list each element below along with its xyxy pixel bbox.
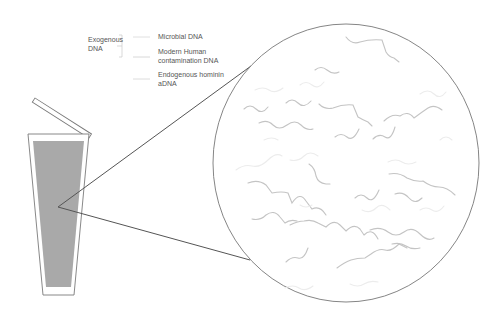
legend-item-label-line2: aDNA [158, 79, 224, 88]
legend-item-microbial: Microbial DNA [158, 32, 203, 41]
legend-item-label: Endogenous hominin [158, 70, 224, 79]
tube-lid [32, 98, 91, 138]
diagram-canvas [0, 0, 501, 319]
legend-group-label-line1: Exogenous [88, 35, 123, 44]
legend-group-label: Exogenous DNA [88, 35, 123, 53]
zoom-line-lower [58, 207, 250, 260]
legend-item-label: Microbial DNA [158, 32, 203, 41]
legend-item-modern-human: Modern Human contamination DNA [158, 47, 218, 65]
legend-item-label-line2: contamination DNA [158, 56, 218, 65]
legend-item-label: Modern Human [158, 47, 218, 56]
magnified-view-circle [213, 24, 479, 302]
legend-item-endogenous: Endogenous hominin aDNA [158, 70, 224, 88]
legend-group-label-line2: DNA [88, 44, 123, 53]
